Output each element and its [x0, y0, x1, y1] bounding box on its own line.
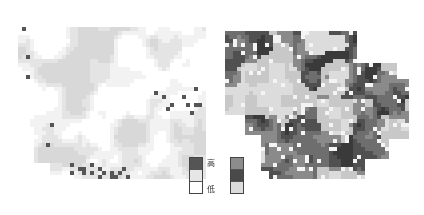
legend-left: [189, 157, 203, 194]
legend-swatch-mid: [231, 170, 243, 182]
legend-label-low: 低: [207, 186, 215, 194]
legend-swatch-low: [190, 182, 202, 193]
legend-right: [230, 157, 244, 194]
raster-map-right: [225, 15, 417, 191]
legend-label-high: 高: [207, 160, 215, 168]
legend-swatch-high: [231, 158, 243, 170]
raster-map-left: [18, 15, 210, 191]
legend-swatch-high: [190, 158, 202, 170]
legend-swatch-mid: [190, 170, 202, 182]
map-canvas-left: [18, 15, 210, 191]
map-canvas-right: [225, 15, 417, 191]
legend-swatch-low: [231, 182, 243, 193]
